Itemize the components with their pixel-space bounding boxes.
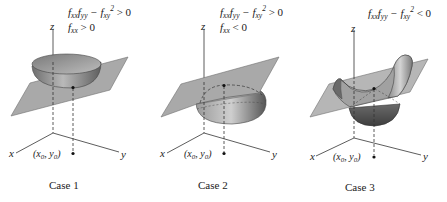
case-1-condition-2: fxx > 0 [68, 21, 95, 35]
case-2-panel: fxxfyy − fxy2 > 0 fxx < 0 z x y (x0, y0)… [159, 4, 284, 191]
case-2-y-label: y [271, 148, 277, 160]
case-3-base-point [372, 155, 375, 158]
case-3-caption: Case 3 [345, 181, 375, 193]
case-1-critical-point [71, 86, 74, 89]
case-1-base-point [71, 152, 74, 155]
case-1-point-label: (x0, y0) [33, 148, 61, 161]
case-3-condition-1: fxxfyy − fxy2 < 0 [368, 5, 432, 21]
case-2-base-point [222, 152, 225, 155]
case-1-x-label: x [8, 147, 14, 159]
case-3-z-label: z [350, 22, 356, 34]
case-3-x-label: x [309, 150, 315, 162]
case-1-z-label: z [49, 20, 55, 32]
case-3-saddle-lower-lobe [349, 104, 400, 126]
case-2-z-label: z [200, 20, 206, 32]
case-1-y-label: y [120, 148, 126, 160]
case-2-y-axis [204, 133, 270, 152]
case-1-y-axis [53, 133, 119, 152]
case-3-point-label: (x0, y0) [333, 151, 361, 164]
case-2-caption: Case 2 [198, 179, 228, 191]
second-derivative-test-figure: fxxfyy − fxy2 > 0 fxx > 0 z x y (x0, y0)… [0, 0, 447, 202]
case-2-point-label: (x0, y0) [184, 148, 212, 161]
case-2-condition-1: fxxfyy − fxy2 > 0 [220, 4, 284, 20]
case-1-caption: Case 1 [49, 179, 79, 191]
case-3-y-label: y [422, 150, 428, 162]
case-2-x-label: x [159, 147, 165, 159]
case-1-condition-1: fxxfyy − fxy2 > 0 [68, 4, 132, 20]
case-1-panel: fxxfyy − fxy2 > 0 fxx > 0 z x y (x0, y0)… [8, 4, 132, 191]
case-2-condition-2: fxx < 0 [220, 21, 247, 35]
case-3-critical-point [372, 87, 375, 90]
case-3-y-axis [354, 138, 421, 155]
case-3-panel: fxxfyy − fxy2 < 0 z x y (x0, y0) Case 3 [309, 5, 432, 193]
case-2-critical-point [222, 84, 225, 87]
